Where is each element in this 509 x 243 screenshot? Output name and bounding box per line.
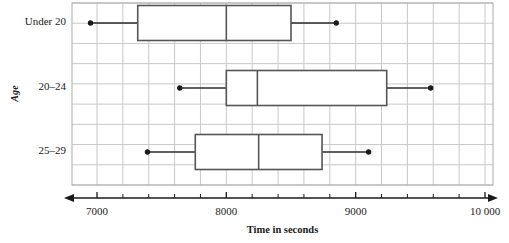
category-label-3: 25–29 [0, 144, 66, 156]
min-point [145, 149, 150, 154]
max-point [428, 85, 433, 90]
x-axis-title: Time in seconds [72, 224, 493, 235]
min-point [88, 20, 93, 25]
category-label-1: Under 20 [0, 15, 66, 27]
boxplot-1 [88, 6, 339, 41]
max-point [334, 20, 339, 25]
box-iqr [138, 6, 291, 41]
x-axis-group [64, 192, 498, 202]
boxplot-chart: Age Time in seconds Under 2020–2425–29 7… [0, 0, 509, 243]
x-tick-label-7000: 7000 [57, 205, 137, 217]
boxplot-3 [145, 135, 372, 170]
min-point [177, 85, 182, 90]
box-iqr [226, 71, 386, 106]
x-axis-arrow-right [488, 194, 498, 202]
x-tick-label-8000: 8000 [186, 205, 266, 217]
x-axis-arrow-left [64, 194, 74, 202]
max-point [366, 149, 371, 154]
x-tick-label-10000: 10 000 [445, 205, 509, 217]
category-label-2: 20–24 [0, 80, 66, 92]
x-tick-label-9000: 9000 [316, 205, 396, 217]
boxplot-2 [177, 71, 433, 106]
